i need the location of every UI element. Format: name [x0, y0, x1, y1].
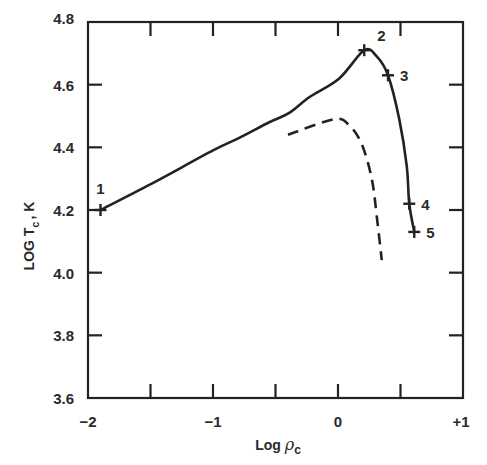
y-tick-labels: 3.63.84.04.24.44.64.8: [53, 10, 75, 407]
y-tick-label: 3.8: [53, 327, 74, 344]
x-tick-label: −2: [79, 413, 96, 430]
point-label: 2: [377, 27, 385, 44]
x-tick-label: −1: [204, 413, 221, 430]
chart: −2−10+1 3.63.84.04.24.44.64.8 12345 Log …: [0, 0, 487, 465]
x-tick-labels: −2−10+1: [79, 413, 469, 430]
point-label: 4: [421, 196, 430, 213]
point-marker-1: 1: [95, 180, 107, 216]
dashed-track-line: [288, 119, 382, 260]
point-label: 3: [400, 67, 408, 84]
data-series: [101, 49, 415, 260]
x-axis-title: Log ρc: [255, 435, 301, 457]
solid-track-line: [101, 49, 415, 232]
point-marker-4: 4: [403, 196, 430, 213]
y-tick-label: 4.8: [53, 10, 74, 27]
y-tick-label: 3.6: [53, 390, 74, 407]
y-tick-label: 4.0: [53, 265, 74, 282]
y-tick-label: 4.2: [53, 202, 74, 219]
point-label: 5: [426, 224, 434, 241]
y-tick-label: 4.4: [53, 139, 75, 156]
point-label: 1: [96, 180, 104, 197]
x-tick-label: 0: [334, 413, 342, 430]
point-markers: 12345: [95, 27, 435, 241]
y-axis-title: LOG Tc, K: [21, 202, 41, 271]
y-tick-label: 4.6: [53, 77, 74, 94]
x-tick-label: +1: [452, 413, 469, 430]
